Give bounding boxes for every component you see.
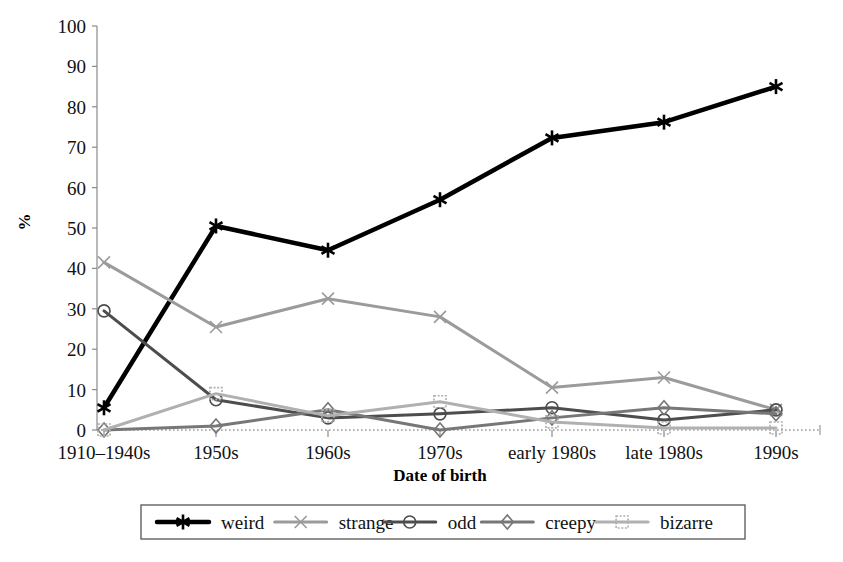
x-tick-label: 1970s	[417, 442, 462, 463]
legend-item-label: weird	[221, 512, 265, 533]
line-chart: 0102030405060708090100 1910–1940s1950s19…	[0, 0, 843, 562]
y-axis: 0102030405060708090100	[58, 16, 98, 441]
y-tick-label: 60	[67, 178, 86, 199]
series-weird	[98, 79, 783, 415]
y-tick-label: 70	[67, 137, 86, 158]
series-strange	[98, 256, 782, 415]
y-tick-label: 50	[67, 218, 86, 239]
data-series-group	[98, 79, 783, 437]
series-line	[104, 262, 776, 409]
y-tick-label: 20	[67, 339, 86, 360]
series-line	[104, 394, 776, 430]
x-tick-label: 1950s	[193, 442, 238, 463]
y-tick-label: 80	[67, 97, 86, 118]
y-tick-label: 30	[67, 299, 86, 320]
y-axis-title: %	[15, 214, 34, 231]
legend-item-label: creepy	[545, 512, 596, 533]
series-line	[104, 311, 776, 420]
x-tick-label: 1910–1940s	[58, 442, 151, 463]
legend-item-label: bizarre	[660, 512, 713, 533]
legend-item-label: odd	[448, 512, 477, 533]
y-tick-label: 0	[77, 420, 87, 441]
y-tick-label: 90	[67, 56, 86, 77]
chart-legend: weirdstrangeoddcreepybizarre	[141, 505, 745, 539]
x-tick-label: 1990s	[753, 442, 798, 463]
x-tick-label: early 1980s	[508, 442, 596, 463]
chart-container: 0102030405060708090100 1910–1940s1950s19…	[0, 0, 843, 562]
x-axis-title: Date of birth	[393, 466, 487, 485]
y-tick-label: 10	[67, 380, 86, 401]
y-tick-label: 40	[67, 258, 86, 279]
series-line	[104, 87, 776, 408]
x-tick-label: late 1980s	[625, 442, 703, 463]
y-tick-label: 100	[58, 16, 87, 37]
x-tick-label: 1960s	[305, 442, 350, 463]
